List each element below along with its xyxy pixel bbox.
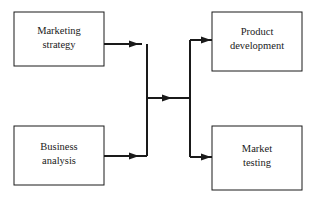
node-label-line2: testing <box>243 157 272 168</box>
node-label-line2: development <box>230 40 284 51</box>
arrow-head-icon <box>129 41 139 48</box>
node-label-line2: analysis <box>42 155 76 166</box>
arrow-head-icon <box>201 37 211 44</box>
edge-business-analysis-to-junction <box>104 153 147 160</box>
edge-marketing-strategy-to-junction <box>104 41 147 157</box>
node-label-line2: strategy <box>42 39 76 50</box>
node-market-testing[interactable]: Market testing <box>212 126 302 190</box>
node-label-line1: Product <box>241 26 274 37</box>
arrow-head-icon <box>201 154 211 161</box>
node-product-development[interactable]: Product development <box>212 12 302 71</box>
flow-diagram: Marketing strategy Business analysis Pro… <box>0 0 315 198</box>
node-label-line1: Business <box>40 141 77 152</box>
node-business-analysis[interactable]: Business analysis <box>14 126 104 185</box>
arrow-head-icon <box>129 153 139 160</box>
edge-split-to-market-testing <box>190 154 212 161</box>
node-label-line1: Market <box>242 143 272 154</box>
node-label-line1: Marketing <box>37 25 81 36</box>
arrow-head-icon <box>162 95 172 102</box>
edge-junction-to-split <box>147 95 190 102</box>
flow-diagram-canvas: Marketing strategy Business analysis Pro… <box>0 0 315 198</box>
node-marketing-strategy[interactable]: Marketing strategy <box>14 12 104 66</box>
edge-split-to-product-development <box>190 37 212 44</box>
